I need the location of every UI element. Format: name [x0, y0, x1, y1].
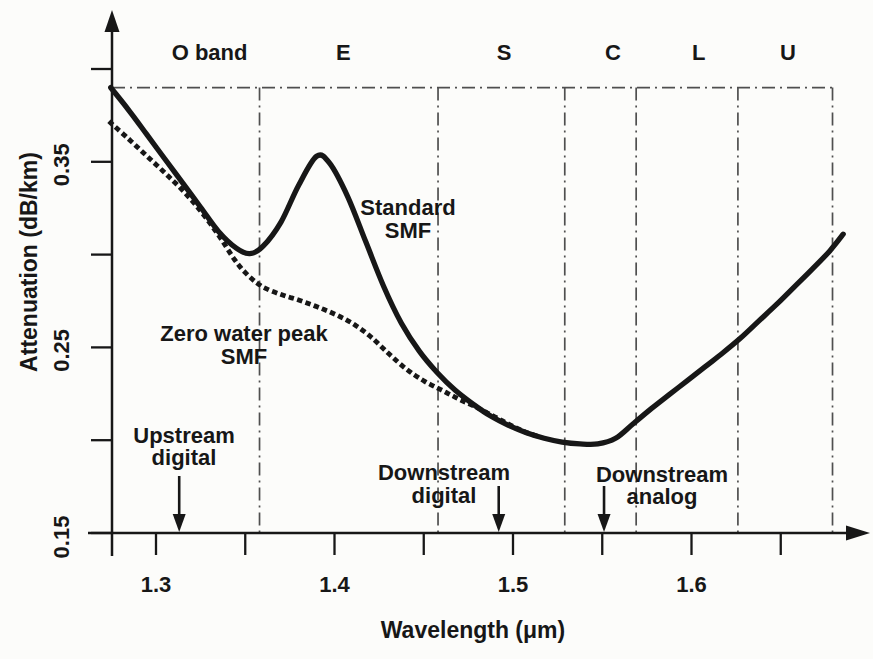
attenuation-vs-wavelength-chart: UpstreamdigitalDownstreamdigitalDownstre… [0, 0, 873, 659]
standard-smf-curve [111, 88, 844, 445]
scanned-figure: UpstreamdigitalDownstreamdigitalDownstre… [0, 0, 873, 659]
downstream-digital-annotation-label: digital [412, 483, 477, 508]
text-labels: Wavelength (μm) Attenuation (dB/km) O ba… [16, 40, 796, 643]
annotations: UpstreamdigitalDownstreamdigitalDownstre… [133, 423, 728, 532]
upstream-digital-annotation-arrowhead [173, 514, 186, 532]
downstream-digital-annotation-arrowhead [492, 514, 505, 532]
x-tick-label: 1.4 [319, 572, 350, 597]
y-axis-arrowhead [105, 10, 120, 32]
y-tick-label: 0.25 [49, 329, 74, 372]
band-label-s: S [497, 40, 512, 65]
downstream-analog-annotation-arrowhead [598, 514, 611, 532]
y-tick-label: 0.35 [49, 143, 74, 186]
x-axis-title: Wavelength (μm) [381, 617, 565, 643]
downstream-digital-annotation-label: Downstream [378, 460, 510, 485]
band-label-c: C [605, 40, 621, 65]
upstream-digital-annotation-label: digital [152, 445, 217, 470]
downstream-analog-annotation-label: analog [627, 484, 698, 509]
x-axis-arrowhead [846, 526, 870, 541]
band-label-e: E [336, 40, 351, 65]
zero-water-peak-smf-label: SMF [221, 344, 267, 369]
x-tick-label: 1.6 [676, 572, 707, 597]
zero-water-peak-smf-label: Zero water peak [160, 321, 328, 346]
x-tick-label: 1.3 [141, 572, 172, 597]
band-label-o-band: O band [172, 40, 248, 65]
standard-smf-label: Standard [360, 195, 455, 220]
y-axis-title: Attenuation (dB/km) [16, 152, 42, 372]
x-tick-label: 1.5 [498, 572, 529, 597]
y-tick-label: 0.15 [49, 516, 74, 559]
band-label-u: U [780, 40, 796, 65]
curves [111, 88, 844, 445]
band-label-l: L [692, 40, 705, 65]
standard-smf-label: SMF [385, 218, 431, 243]
